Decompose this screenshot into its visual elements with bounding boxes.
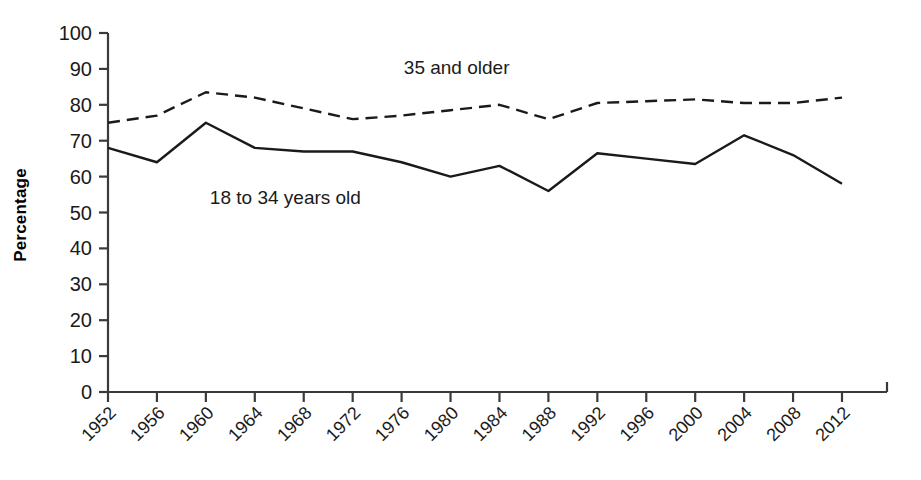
y-axis-tick-label: 70 [70,130,92,152]
y-axis-tick-label: 20 [70,309,92,331]
y-axis-tick-label: 10 [70,345,92,367]
y-axis-tick-label: 80 [70,94,92,116]
y-axis-title-group: Percentage [11,168,30,262]
y-axis-tick-label: 30 [70,273,92,295]
y-axis-tick-label: 100 [59,22,92,44]
y-axis-tick-label: 90 [70,58,92,80]
series-annotation-label: 18 to 34 years old [210,187,361,208]
series-annotation-label: 35 and older [404,57,510,78]
y-axis-tick-label: 60 [70,166,92,188]
y-axis-tick-label: 0 [81,381,92,403]
line-chart: Percentage 0102030405060708090100 195219… [0,0,921,480]
y-axis-title: Percentage [11,168,30,262]
chart-container: Percentage 0102030405060708090100 195219… [0,0,921,480]
y-axis-tick-label: 50 [70,202,92,224]
y-axis-tick-label: 40 [70,237,92,259]
